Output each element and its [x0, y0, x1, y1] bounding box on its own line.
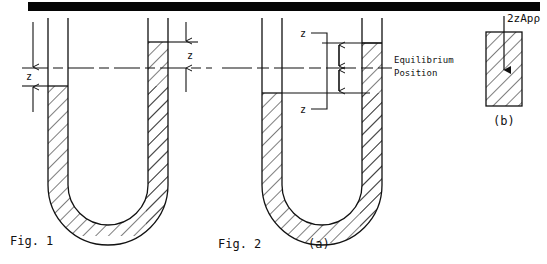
panel-b-group: 2zApρ (b) [486, 12, 540, 128]
figure-page: z z Fig. 1 z [0, 0, 547, 264]
figure-2-lower-bracket [311, 68, 327, 109]
figure-2-lower-dim-label: z [300, 104, 306, 115]
equilibrium-note-line-2: Position [394, 68, 437, 78]
figure-1-left-dim-label: z [26, 71, 32, 82]
panel-b-label: (b) [493, 114, 515, 128]
equilibrium-note-line-1: Equilibrium [394, 55, 454, 65]
utube-oscillation-figure: z z Fig. 1 z [0, 0, 547, 264]
figure-1-group: z z Fig. 1 [10, 18, 212, 248]
figure-1-right-dim-label: z [187, 50, 193, 61]
figure-1-caption: Fig. 1 [10, 234, 53, 248]
figure-2-fluid [260, 43, 384, 243]
figure-2-upper-bracket [311, 33, 327, 68]
figure-2-upper-dim-label: z [300, 28, 306, 39]
figure-2-group: z z Equilibrium Position Fig. 2 (a) [218, 18, 454, 251]
figure-2-caption: Fig. 2 [218, 237, 261, 251]
figure-1-tube-inner-wall [68, 18, 148, 225]
page-edge-black-bar [28, 2, 540, 11]
panel-b-force-label: 2zApρ [507, 12, 540, 25]
panel-a-label: (a) [308, 237, 330, 251]
figure-2-tube-inner-wall [282, 18, 362, 225]
figure-1-fluid [46, 42, 170, 242]
